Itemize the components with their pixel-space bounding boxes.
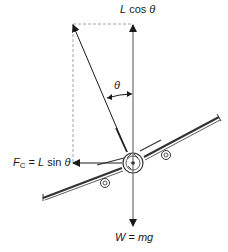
sin-text: sin — [44, 156, 64, 168]
banked-turn-force-diagram — [0, 0, 228, 252]
equals-sign: = — [125, 231, 138, 243]
cos-text: cos — [126, 3, 149, 15]
theta-symbol: θ — [64, 156, 70, 168]
force-var: F — [13, 156, 20, 168]
mg-text: mg — [138, 231, 153, 243]
theta-symbol: θ — [149, 3, 155, 15]
theta-symbol: θ — [114, 79, 120, 91]
weight-var: W — [115, 231, 125, 243]
equals-sign: = — [26, 156, 39, 168]
theta-angle-arc — [107, 91, 132, 100]
lift-vertical-component-label: L cos θ — [120, 4, 155, 15]
theta-angle-label: θ — [114, 80, 120, 91]
weight-label: W = mg — [115, 232, 153, 243]
dashed-construction-lines — [73, 24, 133, 163]
centripetal-force-label: FC = L sin θ — [13, 157, 70, 170]
